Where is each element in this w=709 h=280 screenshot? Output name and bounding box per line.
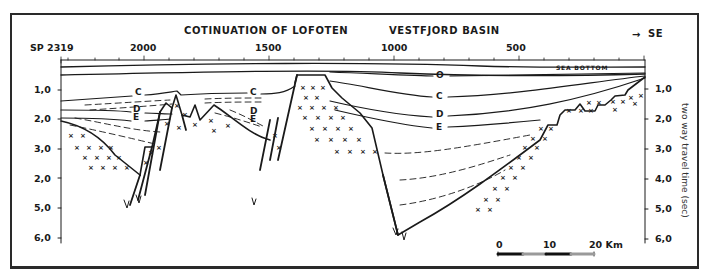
svg-text:×: × — [88, 164, 94, 172]
svg-text:×: × — [612, 106, 618, 114]
svg-text:×: × — [314, 94, 320, 102]
svg-text:×: × — [548, 125, 554, 133]
svg-text:×: × — [148, 149, 154, 157]
svg-text:×: × — [495, 196, 501, 204]
svg-text:×: × — [309, 125, 315, 133]
svg-text:×: × — [520, 164, 526, 172]
svg-text:×: × — [638, 92, 644, 100]
svg-text:×: × — [620, 98, 626, 106]
svg-text:×: × — [174, 102, 180, 110]
right-time-axis — [645, 60, 648, 243]
svg-text:×: × — [538, 125, 544, 133]
svg-text:×: × — [300, 84, 306, 92]
svg-text:×: × — [347, 148, 353, 156]
svg-text:×: × — [303, 94, 309, 102]
svg-text:×: × — [360, 148, 366, 156]
svg-text:×: × — [483, 196, 489, 204]
svg-text:×: × — [356, 136, 362, 144]
svg-text:×: × — [192, 121, 198, 129]
svg-text:×: × — [100, 164, 106, 172]
svg-text:×: × — [534, 144, 540, 152]
svg-text:×: × — [314, 136, 320, 144]
svg-text:×: × — [334, 148, 340, 156]
svg-text:×: × — [272, 132, 278, 140]
svg-text:×: × — [143, 159, 149, 167]
seismic-cross-section: ×× ×××× ×××× ×××× ×××× ×××× ××× ×× ××× ×… — [0, 0, 709, 280]
svg-text:×: × — [500, 174, 506, 182]
fault-arrow-icons — [124, 195, 406, 240]
svg-text:×: × — [512, 174, 518, 182]
svg-text:×: × — [310, 84, 316, 92]
svg-text:×: × — [528, 154, 534, 162]
svg-text:×: × — [98, 144, 104, 152]
svg-text:×: × — [315, 114, 321, 122]
svg-text:×: × — [508, 164, 514, 172]
svg-text:×: × — [108, 144, 114, 152]
svg-text:×: × — [348, 125, 354, 133]
svg-text:×: × — [112, 164, 118, 172]
faults — [130, 75, 398, 235]
svg-text:×: × — [340, 114, 346, 122]
svg-text:×: × — [328, 114, 334, 122]
svg-text:×: × — [516, 154, 522, 162]
dashed-reflectors — [70, 98, 530, 205]
svg-text:×: × — [487, 206, 493, 214]
horizon-d — [61, 78, 645, 117]
svg-text:×: × — [610, 98, 616, 106]
svg-text:×: × — [80, 132, 86, 140]
svg-text:×: × — [328, 136, 334, 144]
horizon-c — [61, 76, 645, 101]
svg-text:×: × — [276, 144, 282, 152]
svg-text:×: × — [156, 144, 162, 152]
svg-text:×: × — [632, 100, 638, 108]
svg-text:×: × — [106, 154, 112, 162]
svg-text:×: × — [94, 154, 100, 162]
svg-text:×: × — [225, 122, 231, 130]
svg-text:×: × — [116, 154, 122, 162]
svg-text:×: × — [504, 185, 510, 193]
svg-text:×: × — [74, 144, 80, 152]
svg-text:×: × — [68, 132, 74, 140]
svg-text:×: × — [588, 107, 594, 115]
svg-text:×: × — [320, 84, 326, 92]
svg-text:×: × — [372, 148, 378, 156]
svg-text:×: × — [530, 135, 536, 143]
svg-text:×: × — [522, 144, 528, 152]
svg-text:×: × — [586, 99, 592, 107]
svg-text:×: × — [302, 114, 308, 122]
svg-text:×: × — [475, 206, 481, 214]
svg-text:×: × — [297, 104, 303, 112]
svg-text:×: × — [335, 125, 341, 133]
svg-text:×: × — [86, 144, 92, 152]
svg-text:×: × — [164, 120, 170, 128]
svg-text:×: × — [322, 125, 328, 133]
svg-text:×: × — [333, 104, 339, 112]
svg-text:×: × — [596, 99, 602, 107]
svg-text:×: × — [566, 107, 572, 115]
svg-text:×: × — [342, 136, 348, 144]
svg-text:×: × — [82, 154, 88, 162]
svg-text:×: × — [208, 117, 214, 125]
horizon-e — [61, 110, 540, 128]
svg-text:×: × — [578, 107, 584, 115]
svg-text:×: × — [176, 124, 182, 132]
basement-pattern: ×× ×××× ×××× ×××× ×××× ×××× ××× ×× ××× ×… — [68, 84, 644, 214]
left-time-axis — [58, 60, 61, 243]
svg-text:×: × — [124, 164, 130, 172]
scale-bar — [498, 252, 594, 256]
svg-text:×: × — [182, 111, 188, 119]
svg-text:×: × — [309, 104, 315, 112]
shotpoint-axis — [61, 56, 645, 63]
svg-text:×: × — [211, 127, 217, 135]
svg-text:×: × — [492, 185, 498, 193]
svg-text:×: × — [542, 135, 548, 143]
svg-text:×: × — [321, 104, 327, 112]
